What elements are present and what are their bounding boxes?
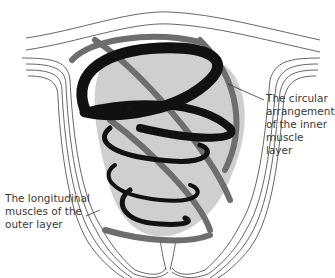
outer-muscle-layer-label: The longitudinal muscles of the outer la… [5,192,105,231]
inner-muscle-layer-label: The circular arrangement of the inner mu… [266,92,330,157]
